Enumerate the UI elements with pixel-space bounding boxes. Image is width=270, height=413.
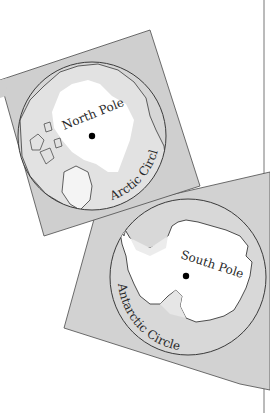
polar-maps-illustration: South Pole Antarctic Circle North Pole [0, 0, 270, 413]
north-pole-marker [89, 133, 95, 139]
south-pole-marker [183, 273, 189, 279]
